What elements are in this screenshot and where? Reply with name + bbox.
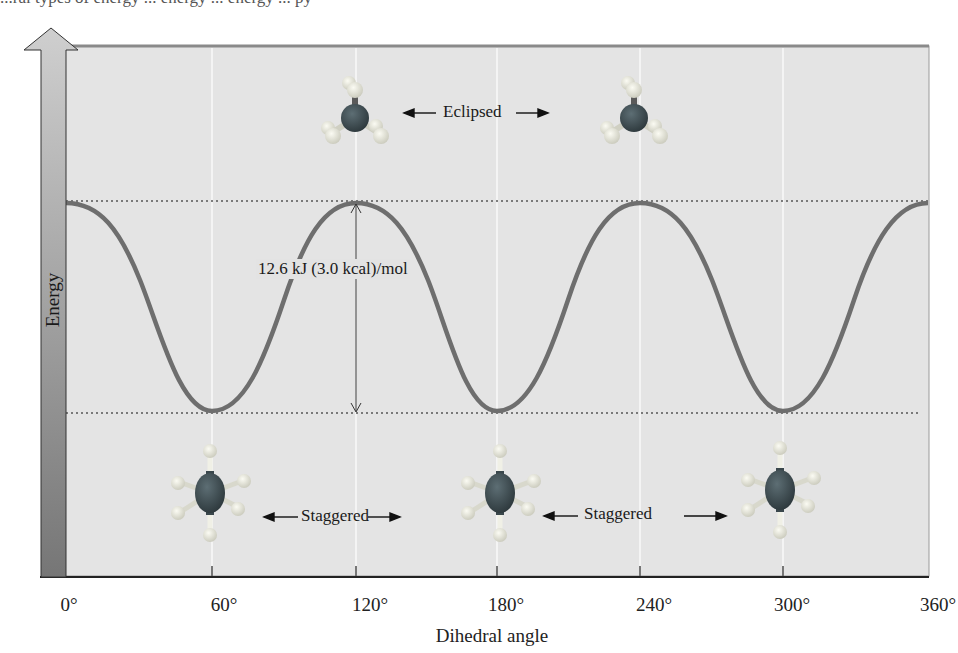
staggered-label-1: Staggered xyxy=(301,506,369,526)
eclipsed-label: Eclipsed xyxy=(443,102,502,122)
x-tick-180: 180° xyxy=(488,594,524,616)
x-tick-300: 300° xyxy=(774,594,810,616)
energy-diagram xyxy=(0,0,958,653)
x-tick-120: 120° xyxy=(352,594,388,616)
x-tick-60: 60° xyxy=(211,594,238,616)
x-axis-label: Dihedral angle xyxy=(436,625,548,647)
x-tick-240: 240° xyxy=(636,594,672,616)
y-axis-label: Energy xyxy=(42,273,64,328)
x-tick-0: 0° xyxy=(60,594,77,616)
staggered-label-2: Staggered xyxy=(584,504,652,524)
barrier-label: 12.6 kJ (3.0 kcal)/mol xyxy=(256,259,410,279)
x-tick-360: 360° xyxy=(920,594,956,616)
